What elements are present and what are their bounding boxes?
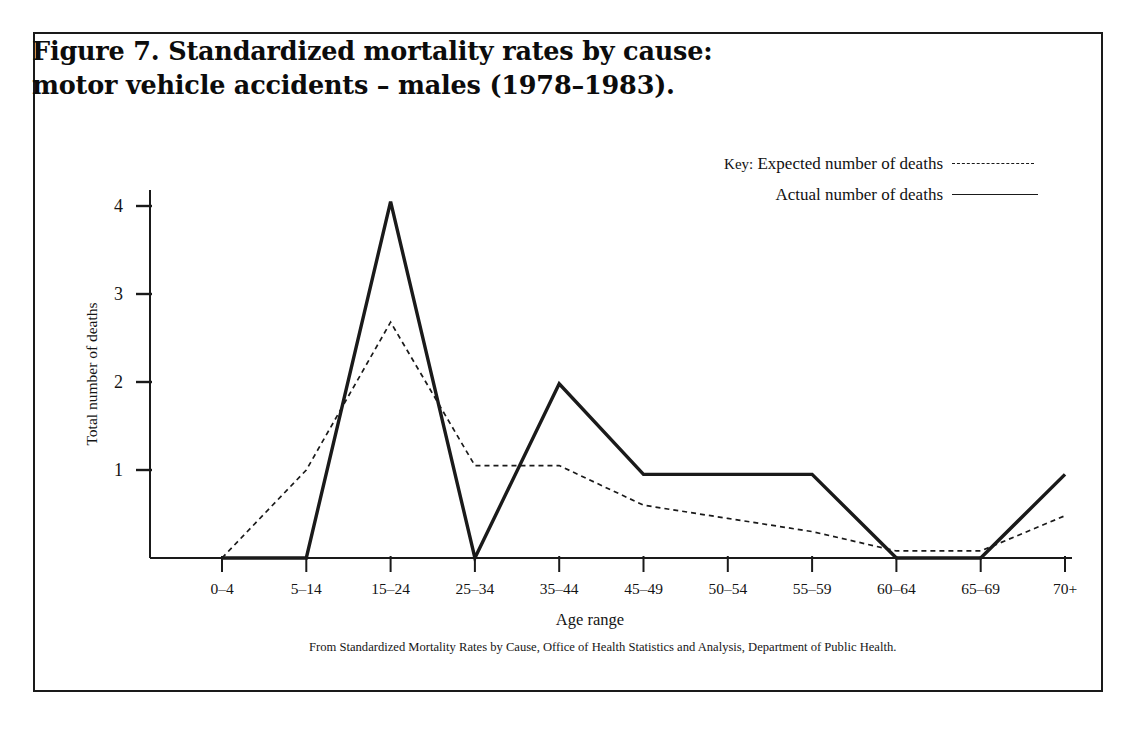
legend-key-word: Key: — [724, 156, 753, 172]
figure-title: Figure 7. Standardized mortality rates b… — [32, 34, 992, 102]
legend-item-actual: Actual number of deaths — [660, 179, 1038, 210]
source-note: From Standardized Mortality Rates by Cau… — [296, 640, 916, 656]
source-note-line-1: From Standardized Mortality Rates by Cau… — [296, 640, 821, 654]
source-note-line-2: Public Health. — [824, 640, 896, 654]
chart-legend: Key: Expected number of deaths Actual nu… — [660, 148, 1038, 210]
figure-frame — [33, 32, 1103, 692]
legend-text-expected: Expected number of deaths — [757, 154, 943, 173]
legend-text-actual: Actual number of deaths — [775, 185, 943, 205]
figure-title-line-1: Figure 7. Standardized mortality rates b… — [32, 34, 992, 68]
legend-swatch-solid-icon — [952, 190, 1038, 200]
legend-label-expected: Key: Expected number of deaths — [724, 154, 943, 174]
legend-swatch-dashed-icon — [952, 159, 1038, 169]
figure-title-line-2: motor vehicle accidents – males (1978–19… — [32, 68, 992, 102]
legend-item-expected: Key: Expected number of deaths — [660, 148, 1038, 179]
